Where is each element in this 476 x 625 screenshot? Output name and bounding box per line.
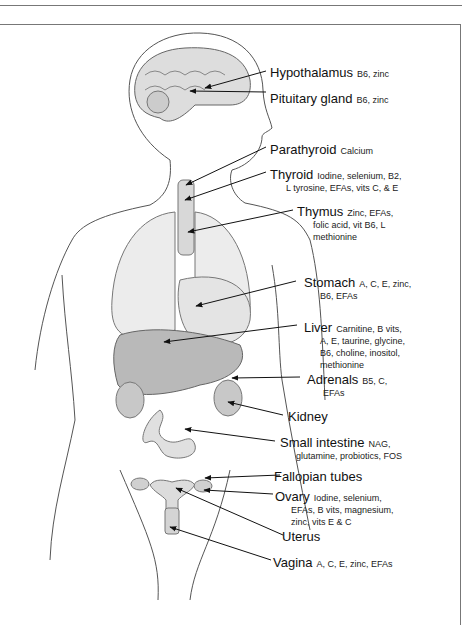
cerebellum xyxy=(147,91,169,113)
label-fallopian-tubes: Fallopian tubes xyxy=(274,467,362,485)
label-thyroid: ThyroidIodine, selenium, B2, L tyrosine,… xyxy=(270,165,401,195)
label-ovary: OvaryIodine, selenium, EFAs, B vits, mag… xyxy=(275,487,394,529)
label-uterus: Uterus xyxy=(282,527,320,545)
label-pituitary-gland: Pituitary glandB6, zinc xyxy=(270,89,388,107)
trachea xyxy=(178,180,194,255)
neck-left xyxy=(150,160,170,205)
label-parathyroid: ParathyroidCalcium xyxy=(270,140,373,158)
label-liver: LiverCarnitine, B vits, A, E, taurine, g… xyxy=(304,318,405,371)
label-vagina: VaginaA, C, E, zinc, EFAs xyxy=(273,553,393,571)
label-kidney: Kidney xyxy=(288,407,328,425)
label-thymus: ThymusZinc, EFAs, folic acid, vit B6, L … xyxy=(297,202,393,244)
small-intestine-organ xyxy=(143,410,195,458)
label-stomach: StomachA, C, E, zinc, B6, EFAs xyxy=(304,273,411,303)
kidney-organ xyxy=(214,380,242,416)
vagina-organ xyxy=(165,508,179,534)
label-small-intestine: Small intestineNAG, glutamine, probiotic… xyxy=(280,433,402,463)
label-hypothalamus: HypothalamusB6, zinc xyxy=(270,63,389,81)
label-adrenals: AdrenalsB5, C, EFAs xyxy=(307,370,387,400)
